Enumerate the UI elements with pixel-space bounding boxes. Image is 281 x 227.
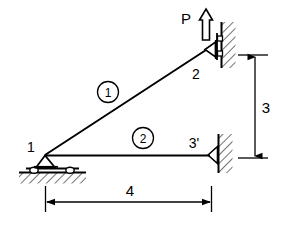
ground-support-hatching: [19, 173, 86, 184]
truss-diagram-canvas: 1 2 P 1 2 3' 3 4: [0, 0, 281, 227]
dimension-vertical-label: 3: [262, 99, 270, 116]
member-2-label-badge: 2: [133, 128, 154, 149]
dimension-horizontal-label: 4: [126, 182, 134, 199]
load-arrow-p: P: [181, 9, 213, 40]
member-1-label-badge: 1: [98, 82, 119, 103]
load-label-p: P: [181, 10, 191, 27]
upper-wall-hatching: [222, 22, 236, 68]
node-2-label: 2: [192, 66, 200, 82]
node-3-label: 3': [189, 135, 199, 151]
truss-members: [45, 50, 210, 156]
roller-support-icon: [26, 156, 79, 174]
dimension-vertical-3: 3: [238, 55, 270, 158]
member-1-line: [45, 50, 206, 155]
load-arrow-icon: [200, 9, 213, 40]
member-1-label: 1: [105, 86, 112, 100]
node-1-label: 1: [27, 139, 35, 155]
truss-diagram: 1 2 P 1 2 3' 3 4: [0, 0, 281, 227]
dimension-horizontal-4: 4: [46, 182, 212, 212]
member-2-label: 2: [140, 132, 147, 146]
lower-wall-hatching: [219, 134, 233, 173]
